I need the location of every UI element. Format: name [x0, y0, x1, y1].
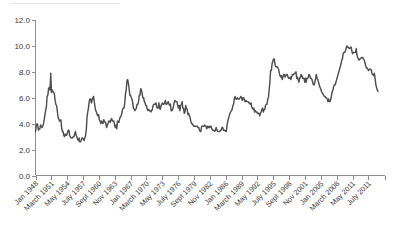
y-axis-tick-label: 0.0 [19, 172, 31, 181]
unemployment-rate-chart: 0.02.04.06.08.010.012.0 Jan 1948March 19… [0, 0, 399, 232]
y-axis-tick-labels: 0.02.04.06.08.010.012.0 [14, 16, 30, 181]
y-axis-tick-label: 2.0 [19, 146, 31, 155]
x-axis-tick-marks [36, 176, 386, 181]
chart-plot-area: 0.02.04.06.08.010.012.0 Jan 1948March 19… [0, 0, 399, 232]
y-axis-tick-label: 6.0 [19, 94, 31, 103]
y-axis-tick-marks [32, 21, 36, 177]
x-axis-tick-labels: Jan 1948March 1951May 1954July 1957Sept … [12, 179, 373, 213]
y-axis-tick-label: 8.0 [19, 68, 31, 77]
y-axis-tick-label: 4.0 [19, 120, 31, 129]
y-axis-tick-label: 10.0 [14, 42, 30, 51]
unemployment-series-line [36, 46, 379, 142]
y-axis-tick-label: 12.0 [14, 16, 30, 25]
